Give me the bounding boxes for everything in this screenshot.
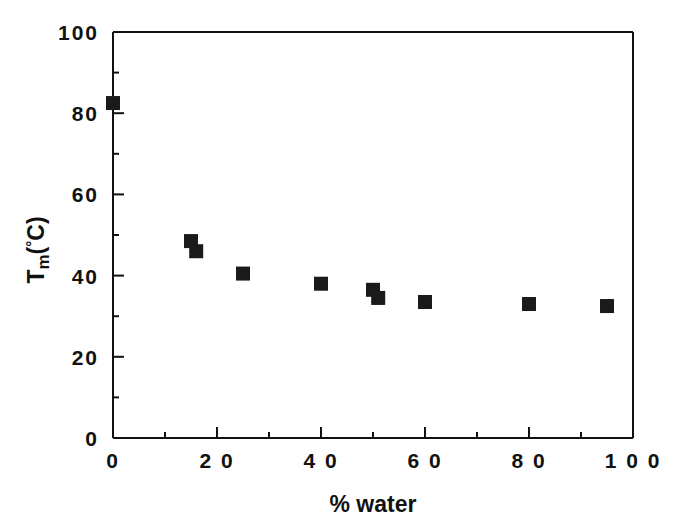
data-point-markers [106,96,614,313]
y-tick-label: 60 [72,183,99,206]
data-point-marker [600,299,614,313]
data-point-marker [371,291,385,305]
data-point-marker [106,96,120,110]
y-tick-label: 40 [72,265,99,288]
y-tick-label: 20 [72,346,99,369]
y-axis-ticks [113,32,124,438]
x-tick-label: 4 0 [303,449,338,472]
data-point-marker [314,277,328,291]
x-axis-tick-labels: 02 04 06 08 01 0 0 [106,449,661,472]
y-axis-title-subscript: m [34,254,53,269]
y-axis-title-main: T [23,270,49,284]
x-tick-label: 0 [106,449,120,472]
x-tick-label: 1 0 0 [605,449,662,472]
scatter-chart-figure: 02 04 06 08 01 0 0 020406080100 % water … [0,0,687,531]
data-point-marker [236,267,250,281]
y-axis-title: Tm(°C) [23,216,53,283]
x-axis-ticks [113,427,633,438]
y-axis-title-text: Tm(°C) [23,216,53,283]
x-tick-label: 8 0 [511,449,546,472]
y-tick-label: 0 [85,427,99,450]
data-point-marker [522,297,536,311]
y-axis-title-close-paren: ) [23,216,49,224]
x-tick-label: 6 0 [407,449,442,472]
data-point-marker [189,244,203,258]
data-point-marker [418,295,432,309]
x-tick-label: 2 0 [199,449,234,472]
y-axis-title-unit: C [23,224,49,241]
chart-screenshot: 02 04 06 08 01 0 0 020406080100 % water … [0,0,687,531]
y-tick-label: 100 [58,21,99,44]
y-axis-tick-labels: 020406080100 [58,21,99,450]
plot-canvas: 02 04 06 08 01 0 0 020406080100 % water … [0,0,687,531]
y-tick-label: 80 [72,102,99,125]
x-axis-title: % water [330,491,417,517]
